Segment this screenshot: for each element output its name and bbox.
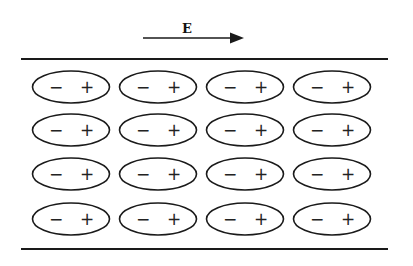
dipole: −+ bbox=[207, 71, 284, 103]
dipole-ellipse bbox=[120, 158, 197, 190]
negative-charge-icon: − bbox=[223, 164, 237, 184]
field-arrow-icon bbox=[143, 33, 244, 44]
dipole-ellipse bbox=[294, 114, 371, 146]
dipole: −+ bbox=[120, 71, 197, 103]
positive-charge-icon: + bbox=[341, 209, 355, 229]
field-label: E bbox=[182, 21, 192, 36]
dipole-ellipse bbox=[120, 203, 197, 235]
dipole: −+ bbox=[120, 203, 197, 235]
dipole: −+ bbox=[294, 114, 371, 146]
dipole-ellipse bbox=[207, 203, 284, 235]
dipole: −+ bbox=[294, 203, 371, 235]
dipole-ellipse bbox=[33, 158, 110, 190]
negative-charge-icon: − bbox=[310, 120, 324, 140]
dipole-ellipse bbox=[33, 203, 110, 235]
positive-charge-icon: + bbox=[80, 77, 94, 97]
dipole-ellipse bbox=[33, 114, 110, 146]
positive-charge-icon: + bbox=[254, 209, 268, 229]
dipole-ellipse bbox=[207, 158, 284, 190]
dipole: −+ bbox=[294, 71, 371, 103]
positive-charge-icon: + bbox=[167, 209, 181, 229]
positive-charge-icon: + bbox=[341, 120, 355, 140]
negative-charge-icon: − bbox=[310, 77, 324, 97]
positive-charge-icon: + bbox=[167, 77, 181, 97]
dipole-ellipse bbox=[207, 114, 284, 146]
positive-charge-icon: + bbox=[254, 77, 268, 97]
dipole: −+ bbox=[120, 158, 197, 190]
dipole-ellipse bbox=[294, 203, 371, 235]
dipole-ellipse bbox=[33, 71, 110, 103]
negative-charge-icon: − bbox=[136, 164, 150, 184]
positive-charge-icon: + bbox=[80, 209, 94, 229]
negative-charge-icon: − bbox=[136, 77, 150, 97]
negative-charge-icon: − bbox=[310, 164, 324, 184]
dipole: −+ bbox=[33, 203, 110, 235]
negative-charge-icon: − bbox=[223, 120, 237, 140]
dipole-grid: −+−+−+−+−+−+−+−+−+−+−+−+−+−+−+−+ bbox=[33, 71, 371, 235]
dipole: −+ bbox=[33, 114, 110, 146]
negative-charge-icon: − bbox=[136, 209, 150, 229]
positive-charge-icon: + bbox=[254, 164, 268, 184]
dipole: −+ bbox=[207, 158, 284, 190]
dipole: −+ bbox=[120, 114, 197, 146]
dipole: −+ bbox=[33, 158, 110, 190]
dipole: −+ bbox=[33, 71, 110, 103]
negative-charge-icon: − bbox=[49, 120, 63, 140]
positive-charge-icon: + bbox=[167, 164, 181, 184]
dipole-ellipse bbox=[120, 114, 197, 146]
positive-charge-icon: + bbox=[167, 120, 181, 140]
negative-charge-icon: − bbox=[223, 77, 237, 97]
negative-charge-icon: − bbox=[49, 77, 63, 97]
negative-charge-icon: − bbox=[49, 164, 63, 184]
negative-charge-icon: − bbox=[136, 120, 150, 140]
dipole: −+ bbox=[294, 158, 371, 190]
dipole: −+ bbox=[207, 203, 284, 235]
positive-charge-icon: + bbox=[80, 164, 94, 184]
dipole-ellipse bbox=[207, 71, 284, 103]
dipole-ellipse bbox=[294, 158, 371, 190]
positive-charge-icon: + bbox=[254, 120, 268, 140]
positive-charge-icon: + bbox=[341, 77, 355, 97]
dipole-ellipse bbox=[294, 71, 371, 103]
positive-charge-icon: + bbox=[341, 164, 355, 184]
negative-charge-icon: − bbox=[49, 209, 63, 229]
negative-charge-icon: − bbox=[223, 209, 237, 229]
negative-charge-icon: − bbox=[310, 209, 324, 229]
dipole-ellipse bbox=[120, 71, 197, 103]
dielectric-diagram: E −+−+−+−+−+−+−+−+−+−+−+−+−+−+−+−+ bbox=[0, 0, 413, 266]
dipole: −+ bbox=[207, 114, 284, 146]
positive-charge-icon: + bbox=[80, 120, 94, 140]
